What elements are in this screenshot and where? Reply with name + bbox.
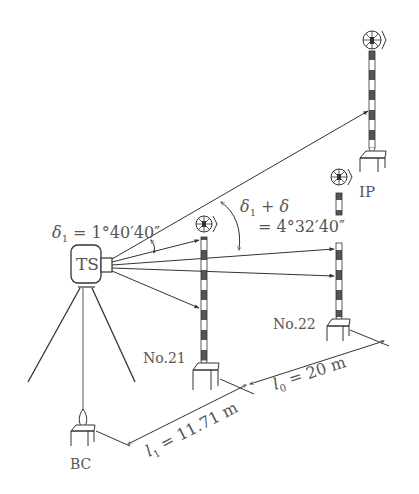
bc-label: BC: [70, 456, 91, 472]
distance-lines: [96, 330, 389, 446]
delta1-angle-label: δ1 = 1°40′40″: [52, 223, 160, 244]
diagram-svg: TS IP No.22 No.21 BC δ1 = 1°40′40″ δ1 + …: [0, 0, 419, 494]
ts-label: TS: [76, 254, 99, 274]
l1-distance-label: l1 = 11.71 m: [142, 398, 242, 463]
l0-distance-label: l0 = 20 m: [270, 352, 348, 395]
angle-arc-delta1-plus-delta: [221, 202, 240, 250]
ip-label: IP: [359, 183, 375, 201]
pole-no21: [193, 216, 219, 390]
pole-ip: [360, 31, 386, 172]
survey-diagram: TS IP No.22 No.21 BC δ1 = 1°40′40″ δ1 + …: [0, 0, 419, 494]
no21-label: No.21: [143, 350, 186, 366]
delta-sum-angle-label: δ1 + δ: [240, 197, 289, 218]
delta-sum-angle-value: = 4°32′40″: [258, 217, 345, 236]
pole-no22: [327, 169, 352, 341]
no22-label: No.22: [273, 316, 316, 332]
stake-bc: [71, 425, 95, 446]
